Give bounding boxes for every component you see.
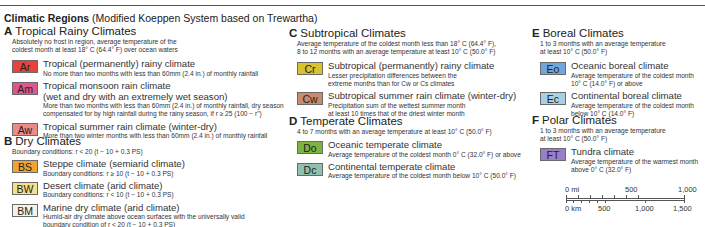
item-desc: Lesser precipitation differences between… (328, 72, 516, 80)
group-heading: DTemperate Climates (289, 115, 521, 128)
group-name: Dry Climates (15, 135, 81, 147)
group-heading: EBoreal Climates (532, 27, 694, 40)
item-desc: compensated for by high rainfall during … (43, 110, 284, 118)
item-name: Subtropical summer rain climate (winter-… (328, 91, 516, 102)
scale-tick (684, 195, 685, 203)
item-desc: Boundary conditions: r < 10 (t − 10 + 0.… (43, 191, 245, 199)
scale-km-zero: 0 km (565, 204, 581, 213)
item-desc: 10° C (14.0° F) or above (571, 80, 694, 88)
desc-line: Average temperature of the coldest month… (297, 40, 516, 48)
swatch-aw: Aw (12, 123, 38, 136)
item-desc: Average temperature of the warmest month (571, 158, 698, 166)
legend-item-dc: Dc Continental temperate climate Average… (297, 162, 521, 181)
item-name: Continental boreal climate (571, 91, 694, 102)
legend-item-bm: BM Marine dry climate (arid climate) Hum… (12, 203, 245, 227)
item-name: Tropical summer rain climate (winter-dry… (43, 122, 284, 133)
legend-item-bw: BW Desert climate (arid climate) Boundar… (12, 181, 245, 200)
item-desc: Precipitation sum of the wettest summer … (328, 102, 516, 110)
group-boreal: EBoreal Climates 1 to 3 months with an a… (532, 27, 694, 118)
item-name: Desert climate (arid climate) (43, 181, 245, 192)
desc-line: 4 to 7 months with an average temperatur… (297, 128, 521, 136)
scale-bar: 0 mi 500 1,000 0 km 500 1,000 1,500 (563, 185, 703, 225)
group-letter: A (4, 25, 12, 37)
group-name: Temperate Climates (300, 115, 402, 127)
scale-line-km (566, 200, 685, 201)
group-desc: 1 to 3 months with an average temperatur… (540, 127, 698, 143)
group-letter: D (289, 115, 297, 127)
desc-line: Boundary conditions: r < 20 (t − 10 + 0.… (12, 148, 245, 156)
legend-item-eo: Eo Oceanic boreal climate Average temper… (540, 61, 694, 88)
item-desc: No more than two months with less than 6… (43, 70, 284, 78)
item-name: Marine dry climate (arid climate) (43, 203, 245, 214)
scale-tick (597, 200, 598, 203)
item-desc: Average temperature of the coldest month… (328, 172, 521, 180)
swatch-ar: Ar (12, 60, 38, 73)
group-heading: BDry Climates (4, 135, 245, 148)
group-name: Subtropical Climates (300, 27, 405, 39)
scale-tick (589, 200, 590, 203)
scale-tick (626, 195, 627, 198)
legend-title-bold: Climatic Regions (4, 12, 89, 24)
desc-line: 8 to 12 months with an average temperatu… (297, 48, 516, 56)
scale-tick (578, 195, 579, 198)
legend-item-bs: BS Steppe climate (semiarid climate) Bou… (12, 159, 245, 178)
scale-tick (602, 195, 603, 198)
item-desc: Average temperature of the coldest month (571, 72, 694, 80)
group-heading: FPolar Climates (532, 114, 698, 127)
item-name: Continental temperate climate (328, 162, 521, 173)
swatch-cw: Cw (297, 92, 323, 105)
item-desc: Average temperature of the coldest month… (328, 151, 521, 159)
item-name: Steppe climate (semiarid climate) (43, 159, 245, 170)
group-dry: BDry Climates Boundary conditions: r < 2… (4, 135, 245, 227)
group-name: Polar Climates (542, 114, 617, 126)
group-heading: ATropical Rainy Climates (4, 25, 284, 38)
scale-line-mi (566, 198, 685, 199)
item-desc: boundary condition of r < 20 (t − 10 + 0… (43, 221, 245, 227)
group-letter: E (532, 27, 540, 39)
item-name: Tundra climate (571, 147, 698, 158)
group-tropical: ATropical Rainy Climates Absolutely no f… (4, 25, 284, 140)
scale-km-1000: 1,000 (635, 204, 654, 213)
swatch-do: Do (297, 141, 323, 154)
scale-tick (638, 195, 639, 198)
legend-item-ar: Ar Tropical (permanently) rainy climate … (12, 59, 284, 78)
desc-line: at least 10° C (50.0° F) (540, 135, 698, 143)
legend-title: Climatic Regions (Modified Koeppen Syste… (4, 12, 317, 24)
group-heading: CSubtropical Climates (289, 27, 516, 40)
swatch-cr: Cr (297, 62, 323, 75)
item-desc: Average temperature of the coldest month (571, 102, 694, 110)
group-letter: F (532, 114, 539, 126)
item-desc: extreme months than for Cw or Cs climate… (328, 80, 516, 88)
scale-km-1500: 1,500 (673, 204, 692, 213)
item-name: Tropical (permanently) rainy climate (43, 59, 284, 70)
legend-item-do: Do Oceanic temperate climate Average tem… (297, 140, 521, 159)
swatch-am: Am (12, 82, 38, 95)
legend-item-ft: FT Tundra climate Average temperature of… (540, 147, 698, 174)
swatch-bs: BS (12, 160, 38, 173)
group-desc: 4 to 7 months with an average temperatur… (297, 128, 521, 136)
scale-km-500: 500 (598, 204, 611, 213)
group-temperate: DTemperate Climates 4 to 7 months with a… (289, 115, 521, 181)
desc-line: 1 to 3 months with an average temperatur… (540, 127, 698, 135)
item-name: Oceanic temperate climate (328, 140, 521, 151)
group-letter: C (289, 27, 297, 39)
swatch-ft: FT (540, 148, 566, 161)
scale-tick (590, 195, 591, 198)
desc-line: Absolutely no frost in region, average t… (12, 38, 284, 46)
desc-line: at least 10° C (50.0° F) (540, 48, 694, 56)
group-subtropical: CSubtropical Climates Average temperatur… (289, 27, 516, 118)
swatch-eo: Eo (540, 62, 566, 75)
group-desc: Boundary conditions: r < 20 (t − 10 + 0.… (12, 148, 245, 156)
swatch-dc: Dc (297, 163, 323, 176)
group-polar: FPolar Climates 1 to 3 months with an av… (532, 114, 698, 174)
group-desc: Absolutely no frost in region, average t… (12, 38, 284, 54)
legend-item-am: Am Tropical monsoon rain climate (wet an… (12, 81, 284, 118)
item-desc: Boundary conditions: r ≥ 10 (t − 10 + 0.… (43, 170, 245, 178)
scale-tick (581, 200, 582, 203)
legend-item-cr: Cr Subtropical (permanently) rainy clima… (297, 61, 516, 88)
item-desc: Humid-air dry climate above ocean surfac… (43, 213, 245, 221)
group-desc: Average temperature of the coldest month… (297, 40, 516, 56)
swatch-bm: BM (12, 204, 38, 217)
swatch-ec: Ec (540, 92, 566, 105)
desc-line: 1 to 3 months with an average temperatur… (540, 40, 694, 48)
